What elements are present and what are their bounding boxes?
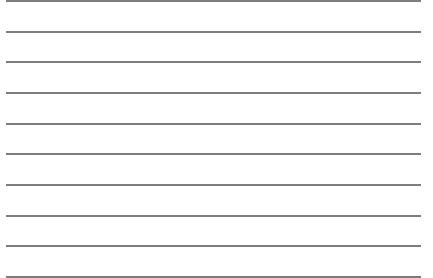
rule-line: [6, 245, 421, 247]
ruled-paper-sheet: [0, 0, 433, 278]
rule-line: [6, 92, 421, 94]
rule-line: [6, 31, 421, 33]
rule-line: [6, 215, 421, 217]
rule-line: [6, 123, 421, 125]
rule-line: [6, 276, 421, 278]
rule-line: [6, 184, 421, 186]
rule-line: [6, 61, 421, 63]
rule-line: [6, 153, 421, 155]
rule-line: [6, 0, 421, 2]
